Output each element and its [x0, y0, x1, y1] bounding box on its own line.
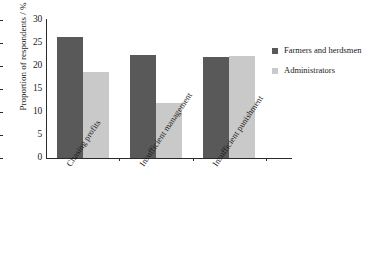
y-tick-label: 5 — [14, 130, 42, 140]
x-tick-mark — [266, 158, 267, 161]
y-tick-label: 20 — [14, 61, 42, 71]
y-tick-label: 15 — [14, 84, 42, 94]
legend-item[interactable]: Farmers and herdsmen — [272, 46, 377, 55]
y-tick-label: 30 — [14, 15, 42, 25]
y-tick-label: 0 — [14, 153, 42, 163]
chart-legend: Farmers and herdsmenAdministrators — [272, 46, 377, 86]
y-tick-mark — [0, 135, 3, 136]
legend-item[interactable]: Administrators — [272, 66, 377, 75]
y-tick-mark — [0, 89, 3, 90]
y-tick-label: 25 — [14, 38, 42, 48]
bar-chart-figure: Proportion of respondents / % 0510152025… — [0, 0, 379, 264]
y-tick-mark — [0, 66, 3, 67]
legend-label: Farmers and herdsmen — [284, 46, 361, 55]
y-tick-mark — [0, 158, 3, 159]
y-tick-mark — [0, 112, 3, 113]
y-tick-label: 10 — [14, 107, 42, 117]
y-tick-mark — [0, 20, 3, 21]
y-tick-mark — [0, 43, 3, 44]
x-axis-line — [46, 158, 292, 159]
legend-swatch-icon — [272, 48, 278, 54]
x-tick-mark — [119, 158, 120, 161]
legend-swatch-icon — [272, 68, 278, 74]
legend-label: Administrators — [284, 66, 335, 75]
x-tick-mark — [193, 158, 194, 161]
